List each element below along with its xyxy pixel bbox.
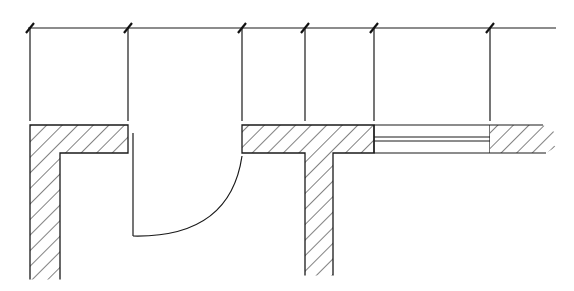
door-opening	[133, 133, 242, 236]
door-swing-arc	[133, 156, 242, 236]
middle-wall-tee	[242, 125, 374, 277]
dimension-line	[26, 23, 556, 121]
window-opening	[374, 125, 490, 153]
left-wall-corner	[30, 125, 128, 281]
extension-lines	[30, 28, 490, 121]
right-wall-break	[490, 125, 556, 153]
floor-plan-diagram	[0, 0, 574, 291]
